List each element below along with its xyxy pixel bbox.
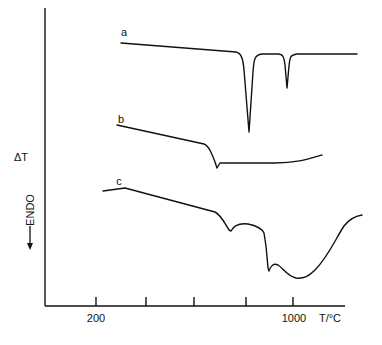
endo-label: ENDO — [24, 194, 36, 226]
curve-c — [103, 188, 362, 278]
x-tick-label-1000: 1000 — [282, 312, 306, 324]
y-axis-label: ΔT — [14, 151, 28, 163]
x-axis-label: T/°C — [319, 312, 341, 324]
curve-a — [121, 43, 357, 132]
curve-label-a: a — [121, 26, 128, 38]
dta-chart: 200 1000 T/°C ΔT ENDO a b c — [0, 0, 382, 345]
endo-arrow-icon — [27, 226, 33, 250]
x-tick-label-200: 200 — [87, 312, 105, 324]
curve-label-c: c — [116, 175, 122, 187]
curve-b — [117, 125, 322, 168]
curve-label-b: b — [118, 113, 124, 125]
